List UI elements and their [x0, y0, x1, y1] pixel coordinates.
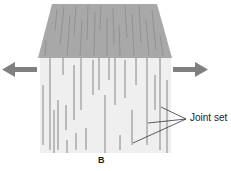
block-front-face	[40, 58, 171, 153]
panel-label: B	[98, 155, 105, 165]
joint-block-diagram	[0, 0, 231, 171]
tension-arrow-right	[173, 62, 208, 77]
tension-arrow-left	[2, 62, 37, 77]
joint-set-label: Joint set	[190, 112, 227, 123]
